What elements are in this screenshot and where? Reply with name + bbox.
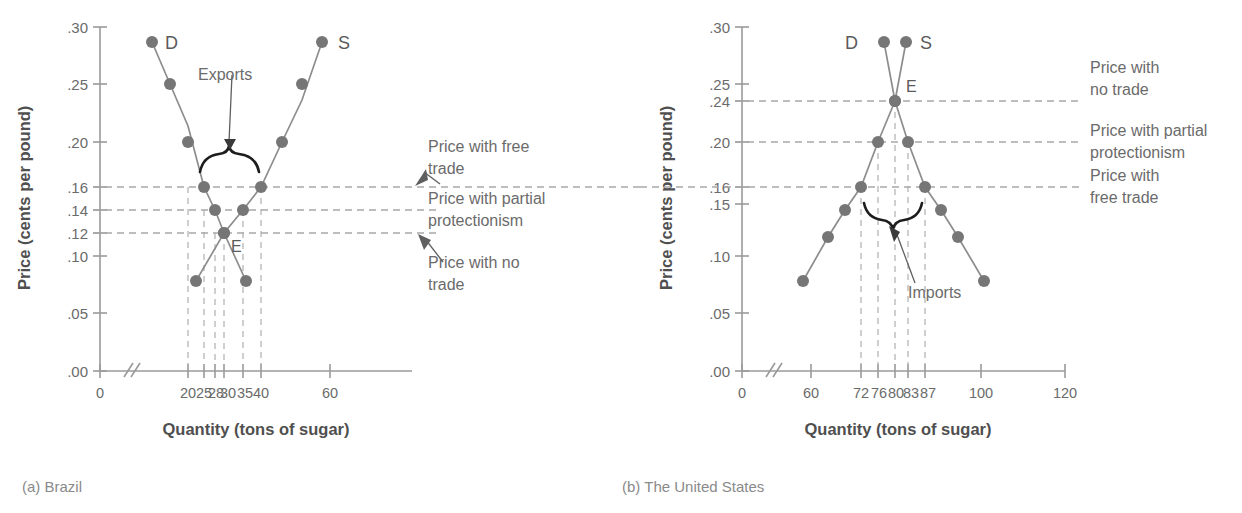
panel-b-axis-break-icon [766, 363, 782, 377]
panel-a-caption: (a) Brazil [22, 478, 82, 495]
panel-a-axis-break-icon [124, 363, 140, 377]
x-tick-label: 60 [803, 385, 819, 401]
x-tick-label: 35 [237, 385, 253, 401]
panel-b-x-tick-labels: 0 60 72 76 80 83 87 100 120 [738, 385, 1077, 401]
arrow-free-trade [415, 169, 428, 186]
annot-no-trade-line1: Price with no [428, 254, 520, 271]
economics-trade-figure: Price (cents per pound) .30 .25 .20 .16 [0, 0, 1242, 513]
y-tick-label: .16 [67, 179, 88, 196]
panel-b-imports-brace [864, 203, 922, 283]
y-tick-label: .30 [709, 19, 730, 36]
panel-b-supply-label: S [920, 33, 932, 53]
y-tick-label: .24 [709, 93, 730, 110]
x-tick-label: 83 [903, 385, 919, 401]
y-tick-label: .00 [67, 363, 88, 380]
panel-a-exports-label: Exports [198, 66, 252, 83]
y-tick-label: .10 [709, 248, 730, 265]
x-tick-label: 100 [969, 385, 993, 401]
panel-b-supply-points [889, 36, 990, 287]
y-tick-label: .05 [67, 305, 88, 322]
panel-a-y-tick-labels: .30 .25 .20 .16 .14 .12 .10 .05 .00 [67, 19, 88, 380]
panel-b-equilibrium-label: E [906, 78, 917, 95]
panel-a-x-axis-title: Quantity (tons of sugar) [163, 420, 350, 438]
y-tick-label: .20 [709, 134, 730, 151]
panel-a-supply-label: S [338, 33, 350, 53]
annot-right-no-trade-line1: Price with [1090, 59, 1159, 76]
annot-free-trade-line1: Price with free [428, 138, 529, 155]
right-annotations: Price with no trade Price with partial p… [1090, 59, 1207, 206]
annot-right-no-trade-line2: no trade [1090, 81, 1149, 98]
panel-a-equilibrium-label: E [231, 238, 242, 255]
panel-a-demand-label: D [165, 33, 178, 53]
annot-free-trade-line2: trade [428, 160, 465, 177]
panel-b-imports-label: Imports [908, 284, 961, 301]
center-annotations: Price with free trade Price with partial… [415, 138, 545, 293]
x-tick-label: 80 [888, 385, 904, 401]
panel-a-exports-brace [200, 75, 259, 172]
y-tick-label: .25 [67, 76, 88, 93]
y-tick-label: .20 [67, 134, 88, 151]
x-tick-label: 40 [253, 385, 269, 401]
annot-no-trade-line2: trade [428, 276, 465, 293]
y-tick-label: .12 [67, 225, 88, 242]
annot-right-free-trade-line2: free trade [1090, 189, 1159, 206]
x-tick-label: 0 [738, 385, 746, 401]
panel-b-y-tick-labels: .30 .25 .24 .20 .16 .15 .10 .05 .00 [709, 19, 730, 380]
panel-b-demand-points [797, 36, 901, 287]
panel-a-brazil: Price (cents per pound) .30 .25 .20 .16 [15, 19, 640, 495]
y-tick-label: .30 [67, 19, 88, 36]
panel-a-y-axis-title: Price (cents per pound) [15, 106, 33, 290]
panel-b-y-axis-title: Price (cents per pound) [657, 106, 675, 290]
y-tick-label: .14 [67, 202, 88, 219]
arrow-no-trade [418, 234, 431, 250]
panel-a-x-tick-labels: 0 20 25 28 30 35 40 60 [96, 385, 338, 401]
annot-partial-line2: protectionism [428, 212, 523, 229]
y-tick-label: .10 [67, 248, 88, 265]
panel-b-united-states: Price (cents per pound) .30 .25 .24 .20 [622, 19, 1080, 495]
annot-right-free-trade-line1: Price with [1090, 167, 1159, 184]
x-tick-label: 76 [871, 385, 887, 401]
x-tick-label: 0 [96, 385, 104, 401]
y-tick-label: .25 [709, 76, 730, 93]
x-tick-label: 30 [220, 385, 236, 401]
y-tick-label: .05 [709, 305, 730, 322]
panel-b-horizontal-gridlines [640, 101, 1080, 187]
annot-partial-line1: Price with partial [428, 190, 545, 207]
panel-b-demand-label: D [845, 33, 858, 53]
x-tick-label: 20 [180, 385, 196, 401]
x-tick-label: 60 [322, 385, 338, 401]
panel-b-x-axis-title: Quantity (tons of sugar) [805, 420, 992, 438]
x-tick-label: 87 [920, 385, 936, 401]
panel-b-caption: (b) The United States [622, 478, 764, 495]
annot-right-partial-line2: protectionism [1090, 144, 1185, 161]
y-tick-label: .15 [709, 196, 730, 213]
panel-a-horizontal-gridlines [93, 187, 640, 233]
panel-b-demand-curve [803, 42, 895, 281]
x-tick-label: 72 [853, 385, 869, 401]
x-tick-label: 120 [1053, 385, 1077, 401]
annot-right-partial-line1: Price with partial [1090, 122, 1207, 139]
y-tick-label: .00 [709, 363, 730, 380]
